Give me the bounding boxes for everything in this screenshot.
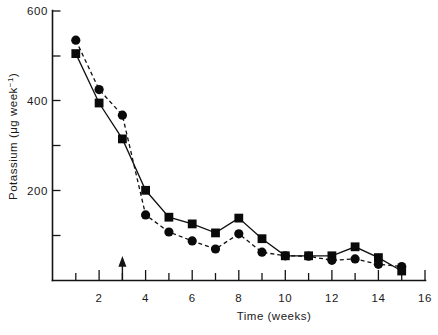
x-axis-ticks <box>76 270 425 281</box>
square-marker-w9 <box>258 234 267 243</box>
square-marker-w1 <box>71 49 80 58</box>
y-axis-title: Potassium (μg week−1) <box>6 73 19 200</box>
y-axis-title-exponent: −1 <box>6 77 15 87</box>
circle-marker-w8 <box>234 229 243 238</box>
circle-marker-w9 <box>257 248 266 257</box>
circle-marker-w13 <box>351 254 360 263</box>
x-axis-tick-labels: 2 4 6 8 10 12 14 16 <box>96 292 432 304</box>
series-square-solid <box>71 49 406 275</box>
series-circle-dashed <box>71 36 406 272</box>
y-tick-label-600: 600 <box>27 5 48 17</box>
square-marker-w15 <box>397 267 406 276</box>
circle-marker-w6 <box>188 236 197 245</box>
circle-marker-w1 <box>71 36 80 45</box>
square-marker-w5 <box>165 213 174 222</box>
x-tick-label-2: 2 <box>96 292 103 304</box>
y-axis-tick-labels: 600 400 200 <box>27 5 48 197</box>
x-tick-label-8: 8 <box>235 292 242 304</box>
x-tick-label-12: 12 <box>325 292 339 304</box>
circle-marker-w2 <box>95 85 104 94</box>
square-marker-w4 <box>141 186 150 195</box>
x-tick-label-16: 16 <box>418 292 432 304</box>
potassium-time-line-chart: 600 400 200 Potassium (μg week−1) <box>0 0 438 335</box>
circle-marker-w4 <box>141 210 150 219</box>
y-axis-title-group: Potassium (μg week−1) <box>6 73 19 200</box>
x-tick-label-14: 14 <box>371 292 385 304</box>
square-marker-w11 <box>304 251 313 260</box>
square-marker-w2 <box>95 99 104 108</box>
square-marker-w13 <box>351 242 360 251</box>
circle-marker-w7 <box>211 244 220 253</box>
figure-container: 600 400 200 Potassium (μg week−1) <box>0 0 438 335</box>
y-tick-label-400: 400 <box>27 95 48 107</box>
treatment-arrow-annotation <box>119 258 125 280</box>
square-marker-w12 <box>328 251 337 260</box>
y-axis-title-unit: μg week <box>7 87 19 134</box>
x-tick-label-6: 6 <box>189 292 196 304</box>
x-tick-label-4: 4 <box>142 292 149 304</box>
circle-marker-w3 <box>118 111 127 120</box>
y-tick-label-200: 200 <box>27 185 48 197</box>
x-tick-label-10: 10 <box>278 292 292 304</box>
square-marker-w6 <box>188 220 197 229</box>
square-marker-w7 <box>211 229 220 238</box>
square-marker-w10 <box>281 251 290 260</box>
y-axis-title-close: ) <box>7 73 19 77</box>
axes-group <box>53 11 426 281</box>
circle-marker-w5 <box>164 227 173 236</box>
square-marker-w8 <box>234 214 243 223</box>
treatment-arrow-head <box>119 258 125 266</box>
x-axis-title: Time (weeks) <box>237 310 312 322</box>
square-marker-w14 <box>374 253 383 262</box>
y-axis-title-name: Potassium ( <box>7 134 19 200</box>
y-axis-ticks <box>53 11 61 236</box>
square-marker-w3 <box>118 135 127 144</box>
